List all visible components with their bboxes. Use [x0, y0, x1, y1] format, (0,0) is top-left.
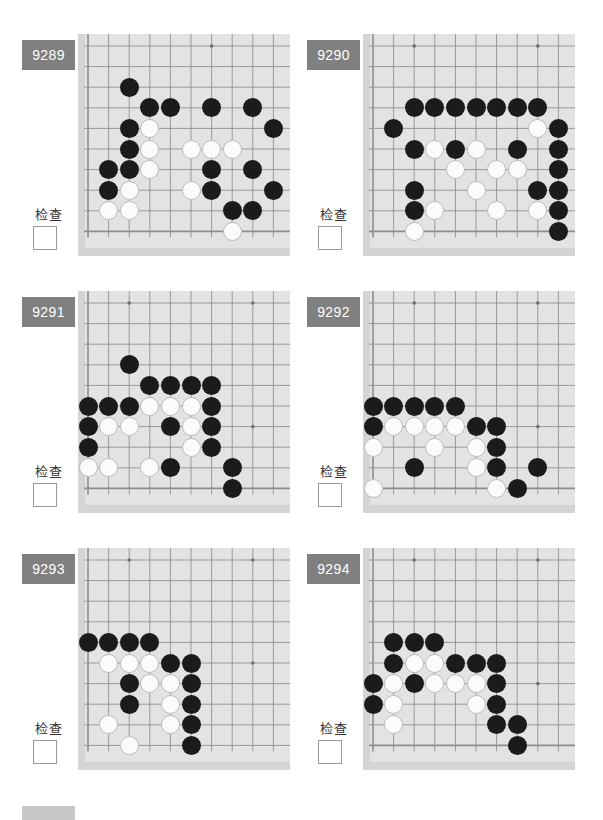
star-point — [536, 558, 540, 562]
black-stone — [405, 397, 424, 416]
check-checkbox[interactable] — [33, 740, 57, 764]
black-stone — [364, 674, 383, 693]
white-stone — [364, 438, 383, 457]
go-problem-9293: 9293检查 — [0, 540, 290, 790]
go-board[interactable] — [78, 291, 290, 513]
star-point — [536, 425, 540, 429]
white-stone — [202, 140, 221, 159]
black-stone — [120, 397, 139, 416]
black-stone — [549, 140, 568, 159]
black-stone — [549, 119, 568, 138]
black-stone — [549, 181, 568, 200]
white-stone — [446, 674, 465, 693]
black-stone — [182, 695, 201, 714]
board-inner — [363, 548, 575, 770]
black-stone — [405, 458, 424, 477]
star-point — [251, 301, 255, 305]
go-problem-9289: 9289检查 — [0, 26, 290, 276]
go-board[interactable] — [363, 548, 575, 770]
black-stone — [120, 674, 139, 693]
star-point — [127, 558, 131, 562]
black-stone — [508, 479, 527, 498]
problem-number-badge: 9294 — [307, 554, 360, 584]
white-stone — [120, 736, 139, 755]
black-stone — [120, 160, 139, 179]
check-checkbox[interactable] — [318, 226, 342, 250]
black-stone — [99, 181, 118, 200]
black-stone — [202, 181, 221, 200]
black-stone — [223, 479, 242, 498]
black-stone — [446, 397, 465, 416]
problem-gutter: 9289检查 — [22, 26, 78, 276]
check-label: 检查 — [310, 204, 358, 223]
white-stone — [120, 201, 139, 220]
black-stone — [120, 695, 139, 714]
black-stone — [79, 397, 98, 416]
problem-number-badge: 9290 — [307, 40, 360, 70]
white-stone — [467, 695, 486, 714]
white-stone — [467, 140, 486, 159]
black-stone — [79, 633, 98, 652]
black-stone — [202, 438, 221, 457]
check-label: 检查 — [310, 461, 358, 480]
go-board[interactable] — [78, 548, 290, 770]
white-stone — [364, 479, 383, 498]
black-stone — [120, 78, 139, 97]
black-stone — [182, 376, 201, 395]
black-stone — [182, 715, 201, 734]
board-inner — [363, 291, 575, 513]
go-problem-9290: 9290检查 — [285, 26, 575, 276]
go-board[interactable] — [363, 291, 575, 513]
white-stone — [405, 654, 424, 673]
black-stone — [508, 736, 527, 755]
white-stone — [140, 654, 159, 673]
go-problem-9292: 9292检查 — [285, 283, 575, 533]
problem-gutter: 9292检查 — [307, 283, 363, 533]
black-stone — [223, 201, 242, 220]
star-point — [412, 558, 416, 562]
white-stone — [182, 181, 201, 200]
black-stone — [182, 654, 201, 673]
white-stone — [467, 438, 486, 457]
black-stone — [384, 397, 403, 416]
white-stone — [120, 417, 139, 436]
problem-number-badge: 9289 — [22, 40, 75, 70]
black-stone — [487, 654, 506, 673]
white-stone — [467, 181, 486, 200]
black-stone — [79, 417, 98, 436]
star-point — [251, 661, 255, 665]
problem-number-badge: 9292 — [307, 297, 360, 327]
white-stone — [120, 654, 139, 673]
problem-gutter: 9291检查 — [22, 283, 78, 533]
black-stone — [364, 417, 383, 436]
black-stone — [487, 695, 506, 714]
go-board[interactable] — [363, 34, 575, 256]
black-stone — [487, 438, 506, 457]
white-stone — [182, 397, 201, 416]
white-stone — [405, 417, 424, 436]
white-stone — [425, 654, 444, 673]
check-checkbox[interactable] — [318, 740, 342, 764]
check-checkbox[interactable] — [33, 483, 57, 507]
black-stone — [405, 633, 424, 652]
black-stone — [264, 119, 283, 138]
star-point — [536, 44, 540, 48]
black-stone — [446, 654, 465, 673]
white-stone — [161, 674, 180, 693]
white-stone — [223, 140, 242, 159]
black-stone — [223, 458, 242, 477]
white-stone — [425, 140, 444, 159]
black-stone — [508, 715, 527, 734]
check-checkbox[interactable] — [318, 483, 342, 507]
check-checkbox[interactable] — [33, 226, 57, 250]
black-stone — [405, 201, 424, 220]
black-stone — [161, 654, 180, 673]
white-stone — [182, 417, 201, 436]
check-label: 检查 — [25, 718, 73, 737]
black-stone — [467, 98, 486, 117]
white-stone — [140, 397, 159, 416]
white-stone — [425, 438, 444, 457]
black-stone — [120, 119, 139, 138]
go-board[interactable] — [78, 34, 290, 256]
